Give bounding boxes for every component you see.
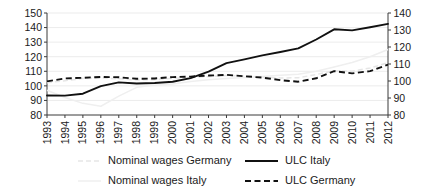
x-axis-tick-label: 1998 xyxy=(130,121,142,145)
y-axis-right-tick-label: 80 xyxy=(394,109,406,121)
legend-label-ulc-germany: ULC Germany xyxy=(285,174,356,186)
line-chart: 8090100110120130140150 80901001101201301… xyxy=(0,0,434,195)
x-axis-tick-label: 1995 xyxy=(76,121,88,145)
y-axis-left-tick-label: 80 xyxy=(30,109,42,121)
y-axis-right-tick-label: 110 xyxy=(394,58,411,70)
legend-label-ulc-italy: ULC Italy xyxy=(285,154,331,166)
x-axis-tick-label: 2005 xyxy=(256,121,268,145)
y-axis-left-tick-label: 130 xyxy=(24,36,42,48)
x-axis-tick-label: 2012 xyxy=(382,121,394,145)
y-axis-left-tick-label: 110 xyxy=(25,65,42,77)
data-series-group xyxy=(47,24,388,106)
x-axis-tick-label: 2003 xyxy=(220,121,232,145)
x-axis-tick-label: 2009 xyxy=(328,121,340,145)
legend-label-nominal-wages-germany: Nominal wages Germany xyxy=(108,154,232,166)
x-axis-tick-label: 2004 xyxy=(238,121,250,145)
x-axis-tick-label: 1993 xyxy=(41,121,53,145)
y-axis-right-tick-label: 100 xyxy=(394,75,412,87)
x-axis-tick-label: 1997 xyxy=(112,121,124,145)
y-axis-left-tick-label: 90 xyxy=(30,94,42,106)
y-axis-left-tick-label: 100 xyxy=(24,80,42,92)
x-axis-tick-label: 2006 xyxy=(274,121,286,145)
y-axis-left-tick-label: 140 xyxy=(24,21,42,33)
x-axis-tick-label: 2007 xyxy=(292,121,304,145)
y-axis-right: 8090100110120130140 xyxy=(388,7,411,121)
x-axis-tick-label: 2010 xyxy=(346,121,358,145)
x-axis-tick-label: 1996 xyxy=(94,121,106,145)
y-axis-right-tick-label: 130 xyxy=(394,24,412,36)
series-line-ulc-italy xyxy=(47,24,388,96)
x-axis-tick-label: 2000 xyxy=(166,121,178,145)
y-axis-right-tick-label: 90 xyxy=(394,92,406,104)
y-axis-left-tick-label: 150 xyxy=(24,7,42,19)
y-axis-right-tick-label: 140 xyxy=(394,7,412,19)
x-axis-tick-label: 2011 xyxy=(364,121,376,144)
x-axis-tick-label: 1999 xyxy=(148,121,160,145)
y-axis-left: 8090100110120130140150 xyxy=(24,7,47,121)
x-axis: 1993199419951996199719981999200020012002… xyxy=(41,115,394,144)
x-axis-tick-label: 2008 xyxy=(310,121,322,145)
x-axis-tick-label: 2001 xyxy=(184,121,196,145)
legend-label-nominal-wages-italy: Nominal wages Italy xyxy=(108,174,207,186)
chart-container: 8090100110120130140150 80901001101201301… xyxy=(0,0,434,195)
x-axis-tick-label: 2002 xyxy=(202,121,214,145)
x-axis-tick-label: 1994 xyxy=(59,121,71,145)
y-axis-left-tick-label: 120 xyxy=(24,51,42,63)
y-axis-right-tick-label: 120 xyxy=(394,41,412,53)
chart-legend: Nominal wages GermanyULC ItalyNominal wa… xyxy=(78,154,356,186)
